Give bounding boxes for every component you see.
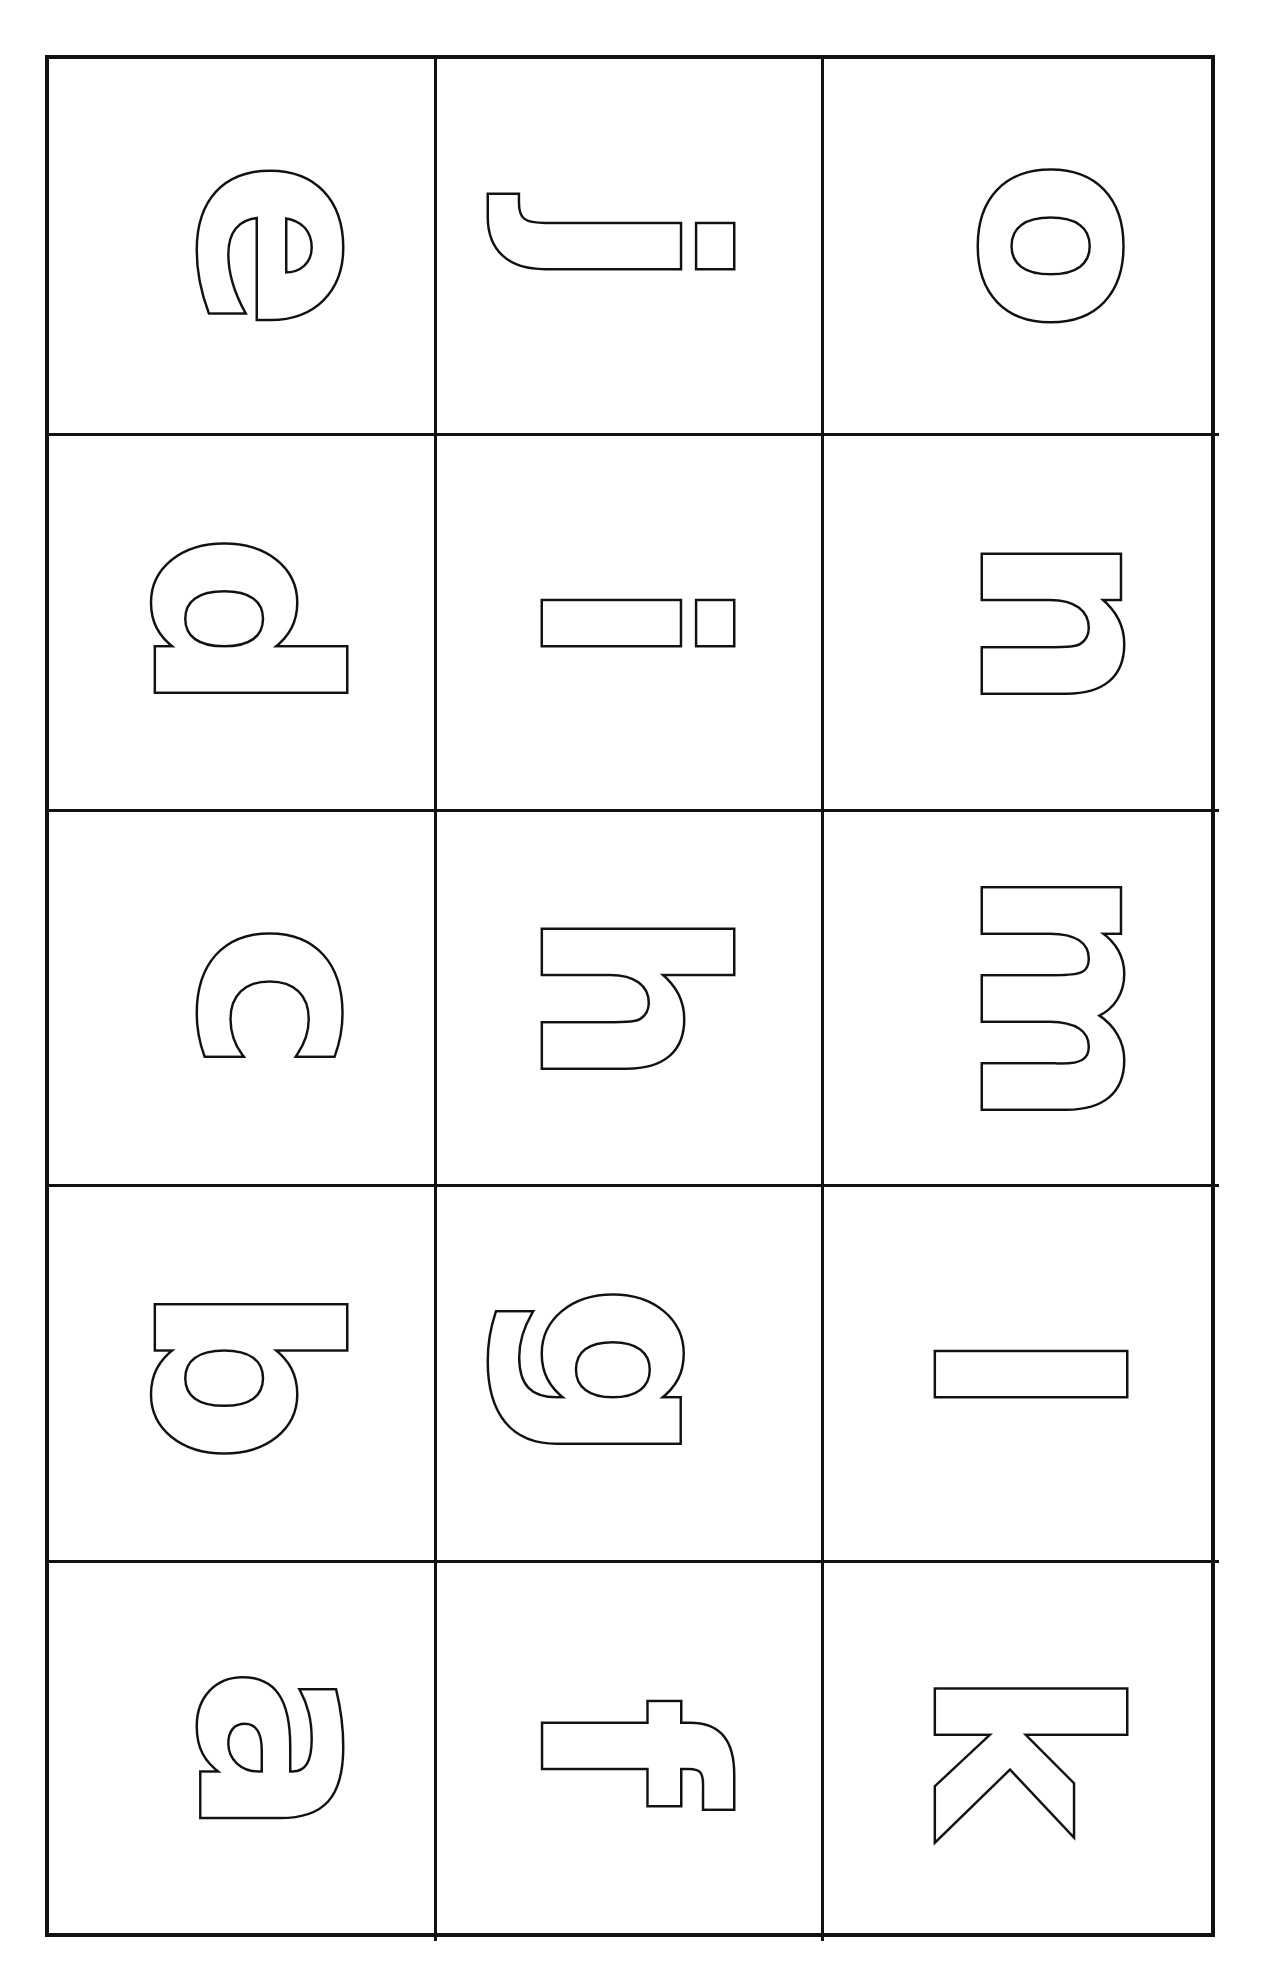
cell-h: h [437, 812, 824, 1187]
cell-l: l [824, 1187, 1219, 1563]
letter-f: f [504, 1698, 754, 1807]
cell-a: a [49, 1563, 437, 1941]
cell-n: n [824, 436, 1219, 812]
letter-o: o [944, 160, 1194, 332]
letter-a: a [163, 1668, 413, 1837]
letter-h: h [504, 909, 754, 1087]
cell-k: k [824, 1563, 1219, 1941]
cell-d: d [49, 436, 437, 812]
cell-j: j [437, 59, 824, 436]
cell-c: c [49, 812, 437, 1187]
cell-f: f [437, 1563, 824, 1941]
letter-g: g [504, 1284, 754, 1463]
cell-o: o [824, 59, 1219, 436]
letter-n: n [944, 534, 1194, 712]
letter-i: i [504, 580, 754, 666]
letter-l: l [897, 1331, 1147, 1417]
letter-e: e [163, 161, 413, 331]
letter-b: b [117, 1284, 367, 1463]
cell-e: e [49, 59, 437, 436]
letter-m: m [944, 868, 1194, 1129]
cell-b: b [49, 1187, 437, 1563]
cell-m: m [824, 812, 1219, 1187]
cell-g: g [437, 1187, 824, 1563]
letter-k: k [897, 1669, 1147, 1835]
letter-grid: e j o d i n c h m b g l a f k [45, 55, 1215, 1937]
cell-i: i [437, 436, 824, 812]
letter-d: d [117, 533, 367, 712]
letter-c: c [163, 924, 413, 1072]
letter-j: j [504, 203, 754, 289]
